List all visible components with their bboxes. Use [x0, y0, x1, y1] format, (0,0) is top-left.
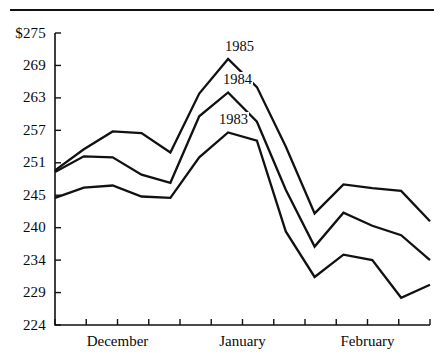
y-axis-tick-label: 234: [23, 253, 46, 268]
y-axis-tick-label: 263: [23, 90, 46, 105]
series-label-1985: 1985: [224, 39, 255, 54]
x-axis-category-label: December: [55, 334, 180, 349]
y-axis-tick-label: $275: [15, 26, 46, 41]
series-label-1983: 1983: [218, 112, 249, 127]
y-axis-tick-label: 251: [23, 155, 46, 170]
y-axis-tick-label: 245: [23, 188, 46, 203]
x-axis-category-label: February: [305, 334, 430, 349]
y-axis-tick-label: 224: [23, 318, 46, 333]
line-chart: $275269263257251245240234229224DecemberJ…: [0, 0, 442, 364]
y-axis-tick-label: 257: [23, 123, 46, 138]
chart-plot-area: [0, 0, 442, 364]
y-axis-tick-label: 229: [23, 285, 46, 300]
y-axis-tick-label: 240: [23, 220, 46, 235]
series-label-1984: 1984: [222, 72, 253, 87]
y-axis-tick-label: 269: [23, 58, 46, 73]
x-axis-category-label: January: [180, 334, 305, 349]
